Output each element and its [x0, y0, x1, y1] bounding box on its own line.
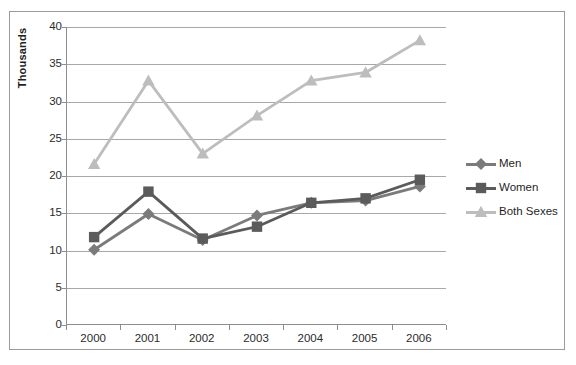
y-tick-label: 30 — [18, 96, 62, 108]
x-tick-label: 2005 — [335, 333, 395, 345]
data-point-marker — [306, 198, 316, 208]
data-point-marker — [415, 175, 425, 185]
y-tick-label: 20 — [18, 170, 62, 182]
legend-item-both-sexes[interactable]: Both Sexes — [466, 200, 566, 224]
legend-swatch-icon — [466, 157, 496, 171]
line-chart: Thousands 0510152025303540 2000200120022… — [0, 0, 576, 365]
data-point-marker — [252, 221, 262, 231]
series-men — [88, 180, 426, 255]
x-tick-label: 2006 — [389, 333, 449, 345]
legend-label: Women — [499, 182, 538, 194]
y-tick-label: 10 — [18, 245, 62, 257]
data-point-marker — [251, 209, 263, 221]
legend-swatch-icon — [466, 181, 496, 195]
chart-legend: MenWomenBoth Sexes — [466, 152, 566, 224]
data-point-marker — [475, 158, 487, 170]
legend-label: Men — [499, 158, 521, 170]
x-axis-tick-labels: 2000200120022003200420052006 — [66, 333, 446, 349]
x-tick-label: 2003 — [226, 333, 286, 345]
x-tick-label: 2000 — [63, 333, 123, 345]
legend-marker-icon — [473, 180, 489, 196]
data-point-marker — [142, 74, 154, 85]
x-tick-mark — [66, 325, 67, 330]
x-tick-mark — [283, 325, 284, 330]
y-tick-label: 0 — [18, 319, 62, 331]
legend-marker-icon — [473, 204, 489, 220]
data-point-marker — [360, 193, 370, 203]
x-tick-label: 2001 — [117, 333, 177, 345]
data-point-marker — [89, 232, 99, 242]
y-tick-label: 40 — [18, 21, 62, 33]
legend-item-women[interactable]: Women — [466, 176, 566, 200]
y-tick-label: 25 — [18, 133, 62, 145]
data-point-marker — [475, 206, 487, 217]
x-tick-label: 2004 — [280, 333, 340, 345]
data-point-marker — [143, 186, 153, 196]
y-axis-tick-labels: 0510152025303540 — [16, 27, 62, 325]
x-tick-mark — [175, 325, 176, 330]
x-tick-mark — [446, 325, 447, 330]
legend-item-men[interactable]: Men — [466, 152, 566, 176]
series-women — [89, 175, 425, 244]
legend-label: Both Sexes — [499, 206, 558, 218]
plot-area — [66, 27, 446, 325]
x-tick-mark — [229, 325, 230, 330]
x-tick-mark — [337, 325, 338, 330]
y-tick-label: 15 — [18, 208, 62, 220]
data-point-marker — [251, 109, 263, 120]
data-point-marker — [414, 34, 426, 45]
y-tick-label: 35 — [18, 59, 62, 71]
x-tick-label: 2002 — [172, 333, 232, 345]
series-line — [94, 40, 420, 164]
series-both-sexes — [88, 34, 426, 169]
y-tick-label: 5 — [18, 282, 62, 294]
x-axis-ticks — [66, 325, 446, 331]
legend-swatch-icon — [466, 205, 496, 219]
series-layer — [67, 27, 447, 325]
data-point-marker — [198, 233, 208, 243]
legend-marker-icon — [473, 156, 489, 172]
data-point-marker — [476, 183, 486, 193]
x-tick-mark — [120, 325, 121, 330]
x-tick-mark — [392, 325, 393, 330]
